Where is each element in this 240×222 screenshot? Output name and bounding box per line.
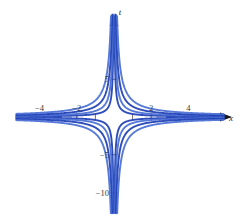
curve-c2.2 [16, 120, 110, 213]
x-axis-label: x [228, 113, 233, 123]
y-tick-label: 5 [105, 74, 109, 84]
curve-c1.4 [16, 119, 112, 213]
curve-c-1.4 [16, 15, 112, 115]
curve-c-0.8 [16, 14, 113, 115]
plot-canvas: −4−224 5−5−10 x t [0, 0, 240, 222]
curve-c-0.8 [115, 118, 224, 212]
y-tick-label: −10 [96, 188, 109, 198]
x-tick-label: 4 [186, 103, 191, 113]
curve-c0.4 [115, 16, 224, 116]
curve-c-2.2 [117, 120, 223, 213]
curve-c0.8 [16, 118, 112, 212]
curve-c-2.2 [16, 16, 111, 114]
y-axis-label: t [119, 7, 122, 17]
x-tick-label: −4 [35, 103, 45, 113]
curve-c0.8 [115, 14, 224, 116]
curve-c-0.4 [16, 16, 113, 116]
curve-c2.2 [117, 16, 224, 114]
curve-c-0.4 [115, 118, 224, 213]
y-tick-label: −5 [100, 150, 109, 160]
x-tick-label: 2 [149, 103, 153, 113]
plot-figure: −4−224 5−5−10 x t [0, 0, 240, 222]
x-tick-label: −2 [72, 103, 81, 113]
curve-c0.4 [16, 118, 113, 213]
curve-family [16, 14, 223, 213]
